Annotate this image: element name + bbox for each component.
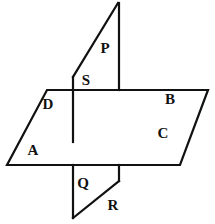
label-c: C bbox=[158, 126, 169, 141]
label-s: S bbox=[82, 73, 90, 88]
geometry-canvas bbox=[0, 0, 215, 224]
label-r: R bbox=[108, 198, 119, 213]
upper-triangle-hypotenuse bbox=[73, 3, 118, 77]
label-d: D bbox=[43, 97, 54, 112]
label-q: Q bbox=[77, 176, 89, 191]
label-a: A bbox=[28, 143, 39, 158]
label-b: B bbox=[165, 92, 175, 107]
geometry-diagram: P S D B A C Q R bbox=[0, 0, 215, 224]
label-p: P bbox=[100, 41, 109, 56]
